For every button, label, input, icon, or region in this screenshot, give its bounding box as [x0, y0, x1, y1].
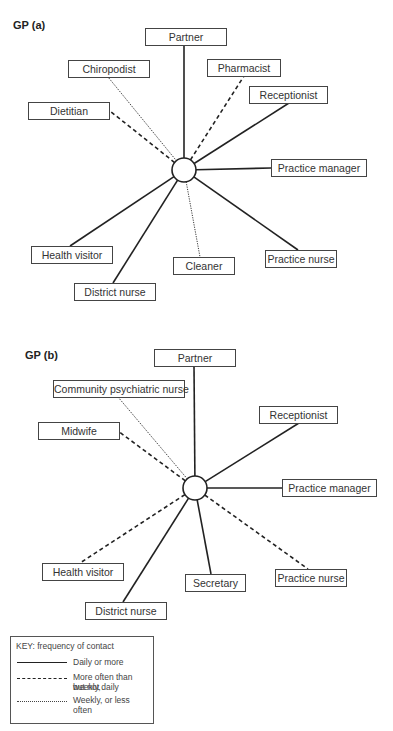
link-more_than_weekly [205, 495, 308, 569]
node-secretary: Secretary [185, 574, 246, 592]
gp-hub-circle [172, 158, 196, 182]
node-district-nurse: District nurse [85, 602, 167, 620]
link-more_than_weekly [110, 111, 175, 163]
link-more_than_weekly [118, 431, 185, 481]
link-daily [194, 103, 289, 164]
link-daily [205, 423, 299, 482]
node-health-visitor: Health visitor [42, 563, 124, 581]
node-partner: Partner [145, 28, 227, 46]
link-more_than_weekly [190, 76, 244, 160]
node-receptionist: Receptionist [259, 406, 338, 424]
node-midwife: Midwife [38, 422, 120, 440]
solid-line-swatch [17, 662, 67, 663]
node-cleaner: Cleaner [173, 257, 235, 275]
link-weekly [186, 182, 200, 257]
node-practice-manager: Practice manager [282, 479, 377, 497]
node-community-psychiatric-nurse: Community psychiatric nurse [53, 380, 185, 398]
node-dietitian: Dietitian [28, 102, 110, 120]
legend-key: KEY: frequency of contact Daily or more … [10, 636, 154, 724]
legend-title: KEY: frequency of contact [16, 641, 114, 651]
node-health-visitor: Health visitor [31, 246, 113, 264]
link-daily [123, 498, 189, 602]
legend-label: Weekly, or less [73, 695, 130, 705]
link-daily [194, 177, 298, 250]
legend-label-2: often [73, 705, 92, 715]
dashed-line-swatch [17, 678, 67, 679]
legend-label: Daily or more [73, 657, 124, 667]
node-district-nurse: District nurse [74, 283, 156, 301]
node-practice-nurse: Practice nurse [275, 569, 347, 587]
node-chiropodist: Chiropodist [68, 60, 150, 78]
node-receptionist: Receptionist [249, 86, 328, 104]
dotted-line-swatch [17, 701, 67, 702]
link-daily [194, 366, 195, 476]
link-daily [196, 168, 271, 170]
legend-label-2: but not daily [73, 682, 119, 692]
gp-hub-circle [183, 476, 207, 500]
node-pharmacist: Pharmacist [207, 59, 281, 77]
link-weekly [108, 77, 176, 161]
node-practice-manager: Practice manager [271, 159, 367, 177]
link-daily [197, 500, 211, 574]
node-practice-nurse: Practice nurse [265, 250, 337, 268]
node-partner: Partner [154, 349, 236, 367]
